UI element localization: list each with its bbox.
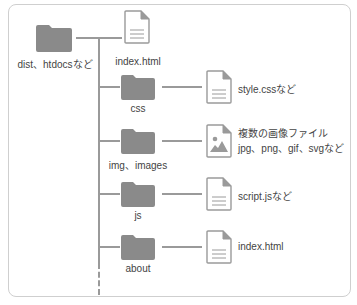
folder-icon[interactable] (121, 234, 155, 260)
folder-label-img: img、images (109, 157, 167, 172)
connector-js-file (162, 193, 202, 195)
connector-css (98, 86, 120, 88)
folder-icon[interactable] (121, 128, 155, 154)
file-label-css: style.cssなど (238, 81, 296, 96)
connector-img (98, 140, 120, 142)
folder-icon[interactable] (121, 181, 155, 207)
trunk-continuation-dashed (98, 263, 100, 295)
connector-js (98, 193, 120, 195)
folder-label-css: css (131, 103, 146, 114)
connector-about (98, 246, 120, 248)
trunk-line (98, 37, 100, 263)
file-label-img-line2: jpg、png、gif、svgなど (238, 140, 344, 155)
file-icon[interactable] (206, 230, 232, 264)
file-label-about: index.html (238, 241, 284, 252)
folder-label-js: js (134, 210, 141, 221)
file-icon[interactable] (206, 177, 232, 211)
file-label-js: script.jsなど (238, 188, 292, 203)
connector-css-file (162, 86, 202, 88)
file-label-img-line1: 複数の画像ファイル (238, 125, 328, 140)
image-file-icon[interactable] (206, 124, 232, 158)
folder-icon[interactable] (121, 74, 155, 100)
connector-img-file (162, 140, 202, 142)
file-icon[interactable] (124, 10, 150, 44)
connector-about-file (162, 246, 202, 248)
folder-icon[interactable] (36, 24, 72, 52)
file-icon[interactable] (206, 70, 232, 104)
folder-label-about: about (125, 263, 150, 274)
root-folder-label: dist、htdocsなど (17, 56, 92, 71)
root-file-label: index.html (115, 56, 161, 67)
